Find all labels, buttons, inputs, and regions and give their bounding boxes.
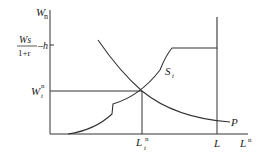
y-tick-suffix: –h xyxy=(37,40,48,51)
supply-curve-sub: t xyxy=(172,72,175,80)
y-tick-denominator: 1+r xyxy=(18,48,31,58)
y-tick-wage-sub: t xyxy=(41,92,44,100)
x-axis-label-sup: n xyxy=(248,136,252,144)
demand-curve-p xyxy=(98,40,230,122)
y-tick-wage-label: W xyxy=(31,85,41,97)
x-tick-labor-sub: t xyxy=(144,144,147,152)
x-tick-labor-force: L xyxy=(213,137,220,149)
x-axis-label: L xyxy=(239,137,246,149)
y-tick-wage-sup: n xyxy=(41,82,45,90)
demand-curve-label: P xyxy=(230,116,238,128)
supply-curve-label: S xyxy=(165,65,171,77)
y-tick-numerator: Ws xyxy=(19,34,31,45)
x-tick-labor-sup: n xyxy=(145,135,149,143)
x-tick-labor-label: L xyxy=(135,136,142,148)
y-axis-label-sup: n xyxy=(44,12,48,21)
diagram-canvas: W n Ws 1+r –h W t n L t n L L n S t P xyxy=(0,0,265,160)
